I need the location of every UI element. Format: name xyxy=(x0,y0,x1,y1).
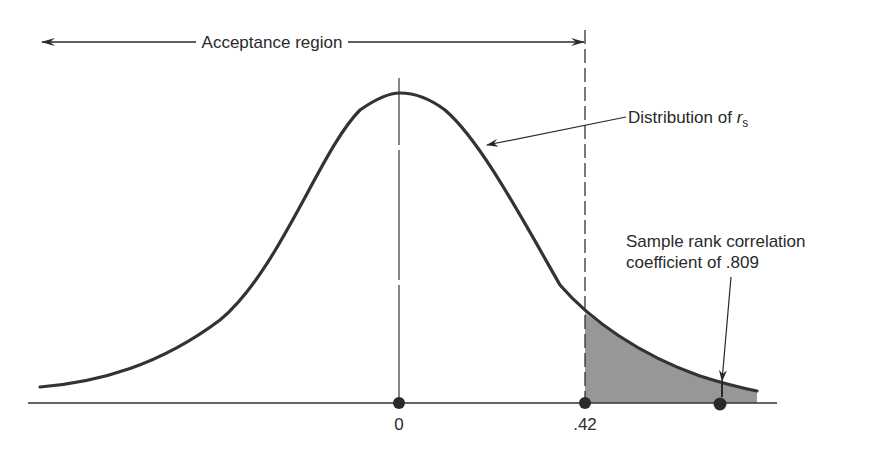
rejection-region-shade xyxy=(585,313,757,403)
distribution-pointer xyxy=(487,117,626,145)
tick-label-critical: .42 xyxy=(573,415,597,434)
rank-correlation-diagram: Acceptance region Distribution of rs Sam… xyxy=(0,0,871,453)
critical-point xyxy=(579,397,591,409)
distribution-label: Distribution of rs xyxy=(628,108,748,130)
sample-point xyxy=(714,398,727,411)
sample-label-line2: coefficient of .809 xyxy=(626,253,759,272)
sample-pointer xyxy=(722,277,731,381)
sample-label-line1: Sample rank correlation xyxy=(626,232,806,251)
acceptance-region-label: Acceptance region xyxy=(202,33,343,52)
zero-point xyxy=(393,397,405,409)
tick-label-zero: 0 xyxy=(394,415,403,434)
